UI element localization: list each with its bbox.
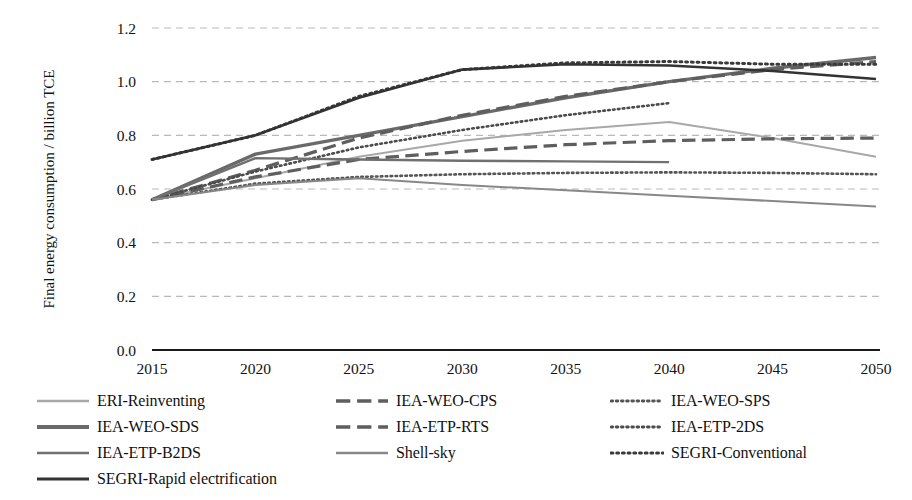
data-series-group: [152, 58, 876, 207]
legend-item[interactable]: IEA-ETP-RTS: [335, 414, 610, 440]
legend-line-swatch-icon: [610, 447, 664, 459]
legend-item[interactable]: ERI-Reinventing: [0, 388, 335, 414]
y-tick-label: 0.2: [117, 288, 136, 305]
legend-item-label: IEA-WEO-SDS: [97, 418, 199, 436]
legend-item-label: SEGRI-Conventional: [671, 444, 807, 462]
legend-line-swatch-icon: [335, 421, 389, 433]
legend-item[interactable]: IEA-WEO-CPS: [335, 388, 610, 414]
y-tick-labels: 0.00.20.40.60.81.01.2: [117, 20, 137, 359]
chart-figure: 0.00.20.40.60.81.01.2 201520202025203020…: [0, 0, 912, 500]
legend-line-swatch-icon: [610, 395, 664, 407]
y-tick-label: 1.2: [117, 20, 136, 37]
x-tick-label: 2045: [757, 360, 788, 377]
legend-item[interactable]: IEA-ETP-B2DS: [0, 440, 335, 466]
series-line: [152, 62, 876, 200]
legend-line-swatch-icon: [36, 395, 90, 407]
legend-row: IEA-ETP-B2DSShell-skySEGRI-Conventional: [0, 440, 912, 466]
legend-item-label: IEA-WEO-SPS: [671, 392, 770, 410]
y-tick-label: 0.6: [117, 181, 137, 198]
x-tick-label: 2035: [550, 360, 581, 377]
series-line: [152, 138, 876, 200]
x-tick-label: 2030: [447, 360, 478, 377]
legend-item-label: IEA-ETP-RTS: [396, 418, 489, 436]
legend-item-label: IEA-WEO-CPS: [396, 392, 497, 410]
legend-line-swatch-icon: [335, 395, 389, 407]
legend-row: ERI-ReinventingIEA-WEO-CPSIEA-WEO-SPS: [0, 388, 912, 414]
x-tick-labels: 20152020202520302035204020452050: [137, 360, 892, 377]
legend-item[interactable]: IEA-WEO-SPS: [610, 388, 910, 414]
legend-item-label: IEA-ETP-B2DS: [97, 444, 201, 462]
x-tick-label: 2040: [654, 360, 685, 377]
legend-line-swatch-icon: [36, 447, 90, 459]
y-tick-label: 0.4: [117, 234, 137, 251]
legend-item[interactable]: Shell-sky: [335, 440, 610, 466]
legend-line-swatch-icon: [36, 473, 90, 485]
series-line: [152, 62, 876, 160]
legend-line-swatch-icon: [610, 421, 664, 433]
x-tick-label: 2020: [240, 360, 271, 377]
legend-item-label: ERI-Reinventing: [97, 392, 205, 410]
series-line: [152, 103, 669, 200]
legend-item-label: SEGRI-Rapid electrification: [97, 470, 277, 488]
legend-item-label: IEA-ETP-2DS: [671, 418, 764, 436]
legend-row: SEGRI-Rapid electrification: [0, 466, 912, 492]
x-tick-label: 2025: [343, 360, 374, 377]
series-line: [152, 58, 876, 200]
legend-item[interactable]: IEA-WEO-SDS: [0, 414, 335, 440]
y-axis-title: Final energy consumption / billion TCE: [41, 69, 57, 308]
legend-line-swatch-icon: [36, 421, 90, 433]
chart-legend: ERI-ReinventingIEA-WEO-CPSIEA-WEO-SPSIEA…: [0, 388, 912, 500]
legend-item[interactable]: SEGRI-Rapid electrification: [0, 466, 335, 492]
y-tick-label: 0.0: [117, 342, 137, 359]
series-line: [152, 64, 876, 159]
y-tick-label: 0.8: [117, 127, 137, 144]
legend-item[interactable]: SEGRI-Conventional: [610, 440, 910, 466]
y-tick-label: 1.0: [117, 73, 137, 90]
y-axis-title-text: Final energy consumption / billion TCE: [41, 69, 57, 308]
legend-item[interactable]: IEA-ETP-2DS: [610, 414, 910, 440]
line-chart: 0.00.20.40.60.81.01.2 201520202025203020…: [0, 0, 912, 390]
legend-line-swatch-icon: [335, 447, 389, 459]
legend-item-label: Shell-sky: [396, 444, 456, 462]
x-tick-label: 2015: [137, 360, 168, 377]
legend-row: IEA-WEO-SDSIEA-ETP-RTSIEA-ETP-2DS: [0, 414, 912, 440]
x-tick-label: 2050: [861, 360, 892, 377]
